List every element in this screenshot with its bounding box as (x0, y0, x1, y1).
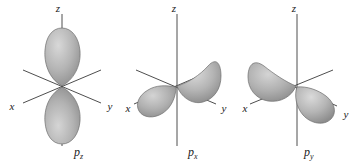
axis-label-x: x (242, 102, 248, 114)
px-diagram: x z y px (120, 0, 238, 161)
p-orbital-figure: z x y pz (0, 0, 357, 161)
axis-label-z: z (171, 2, 177, 14)
orbital-panel-pz: z x y pz (0, 0, 120, 161)
orbital-panel-py: x z y py (238, 0, 357, 161)
orbital-lobe-x-front (177, 62, 221, 103)
orbital-caption-py: py (303, 145, 314, 161)
orbital-lobe-z-up (45, 28, 80, 86)
orbital-lobe-y-front (296, 87, 335, 123)
axis-label-y: y (343, 108, 349, 120)
axis-label-x: x (9, 100, 15, 112)
orbital-lobe-z-down (45, 87, 80, 144)
orbital-lobe-y-back (248, 63, 296, 102)
orbital-panel-px: x z y px (120, 0, 238, 161)
axis-label-y: y (221, 102, 227, 114)
py-diagram: x z y py (238, 0, 357, 161)
axis-label-z: z (291, 2, 297, 14)
axis-label-x: x (125, 102, 131, 114)
axis-label-y: y (107, 100, 113, 112)
orbital-caption-px: px (187, 145, 198, 161)
axis-label-z: z (55, 2, 61, 14)
orbital-lobe-x-back (137, 86, 176, 117)
orbital-caption-pz: pz (73, 145, 84, 161)
pz-diagram: z x y pz (0, 0, 120, 161)
